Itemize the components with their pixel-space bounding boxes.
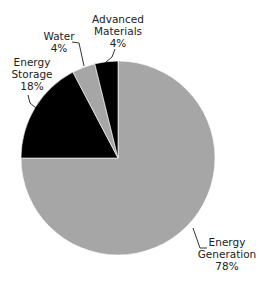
leader-advanced-materials <box>106 49 115 62</box>
label-name: Energy <box>7 56 57 68</box>
label-name: Energy <box>195 236 259 248</box>
label-water: Water 4% <box>39 30 79 54</box>
label-name: Materials <box>88 25 148 37</box>
label-energy-storage: Energy Storage 18% <box>7 56 57 92</box>
label-name: Generation <box>195 248 259 260</box>
label-name: Advanced <box>88 13 148 25</box>
label-percent: 18% <box>7 80 57 92</box>
label-name: Storage <box>7 68 57 80</box>
label-advanced-materials: Advanced Materials 4% <box>88 13 148 49</box>
label-energy-generation: Energy Generation 78% <box>195 236 259 272</box>
label-name: Water <box>39 30 79 42</box>
label-percent: 4% <box>88 37 148 49</box>
label-percent: 78% <box>195 260 259 272</box>
label-percent: 4% <box>39 42 79 54</box>
leader-energy-storage <box>28 95 36 108</box>
